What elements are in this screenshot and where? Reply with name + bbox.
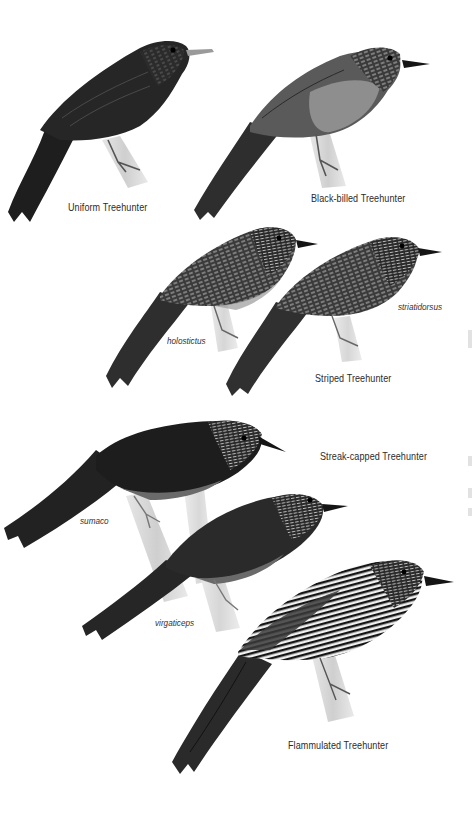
bird-eye <box>241 435 246 440</box>
bird-tail <box>172 650 272 774</box>
bird-eye <box>387 55 392 60</box>
species-label-black-billed-treehunter: Black-billed Treehunter <box>311 192 405 204</box>
bird-bill <box>296 240 318 248</box>
bird-bill <box>186 49 214 56</box>
species-label-flammulated-treehunter: Flammulated Treehunter <box>288 739 388 751</box>
field-guide-plate <box>0 0 472 814</box>
bird-belly <box>309 80 380 132</box>
subspecies-label-sumaco: sumaco <box>80 515 109 526</box>
bird-uniform-treehunter <box>8 41 214 222</box>
species-label-streak-capped-treehunter: Streak-capped Treehunter <box>320 450 427 462</box>
page-edge-mark <box>468 330 472 348</box>
branch <box>334 316 362 362</box>
species-label-striped-treehunter: Striped Treehunter <box>315 372 391 384</box>
subspecies-label-striatidorsus: striatidorsus <box>398 301 442 312</box>
bird-bill <box>418 248 442 256</box>
bird-eye <box>308 498 313 503</box>
page-edge-mark <box>468 508 472 516</box>
page-edge-mark <box>468 488 472 498</box>
subspecies-label-holostictus: holostictus <box>167 335 206 346</box>
bird-tail <box>194 122 280 220</box>
bird-bill <box>402 60 430 68</box>
bird-eye <box>400 244 405 249</box>
branch <box>310 134 346 188</box>
bird-bill <box>322 504 348 512</box>
bird-eye <box>402 570 407 575</box>
bird-tail <box>226 302 308 396</box>
subspecies-label-virgaticeps: virgaticeps <box>155 617 194 628</box>
branch <box>312 652 354 722</box>
bird-bill <box>258 436 286 452</box>
bird-eye <box>170 47 175 52</box>
bird-eye <box>277 236 282 241</box>
species-label-uniform-treehunter: Uniform Treehunter <box>68 201 147 213</box>
page-edge-mark <box>468 456 472 466</box>
bird-bill <box>424 576 454 586</box>
